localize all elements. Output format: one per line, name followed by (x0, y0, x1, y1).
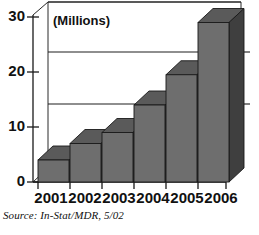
bar-2006-side (229, 9, 244, 183)
xtick-label-2005: 2005 (170, 189, 203, 206)
bar-2003-front (102, 133, 133, 183)
ytick-label-30: 30 (8, 7, 25, 24)
bar-2002-front (70, 144, 101, 183)
bar-chart-figure: 0 10 20 30 (Millions) (0, 0, 259, 235)
ytick-label-0: 0 (17, 172, 25, 189)
unit-label: (Millions) (53, 13, 110, 28)
bar-2001-front (38, 160, 69, 182)
x-axis-labels: 2001 2002 2003 2004 2005 2006 (34, 189, 237, 206)
xtick-label-2004: 2004 (136, 189, 170, 206)
wall-top-depth-line (33, 2, 48, 15)
xtick-label-2006: 2006 (204, 189, 237, 206)
xtick-label-2002: 2002 (68, 189, 101, 206)
ytick-label-10: 10 (8, 117, 25, 134)
ytick-label-20: 20 (8, 62, 25, 79)
bar-2005-front (166, 75, 197, 182)
xtick-label-2003: 2003 (102, 189, 135, 206)
bar-2004-front (134, 105, 165, 182)
bar-2006-front (198, 23, 229, 183)
source-note: Source: In-Stat/MDR, 5/02 (3, 209, 124, 221)
xtick-label-2001: 2001 (34, 189, 67, 206)
bar-2006[interactable] (198, 9, 244, 183)
y-axis-labels: 0 10 20 30 (8, 7, 25, 189)
x-axis-ticks (38, 182, 226, 189)
chart-plot-area: 0 10 20 30 (Millions) (0, 0, 259, 235)
